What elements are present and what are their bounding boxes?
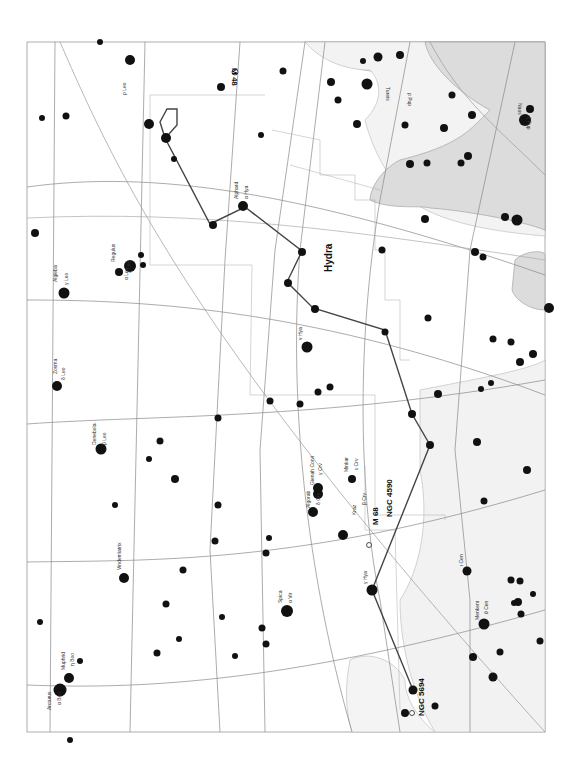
- kraz-sub-label: β Crv: [361, 492, 367, 505]
- muphrid-sub-label: η Boo: [69, 653, 75, 666]
- rho-pup-label: ρ Pup: [407, 93, 413, 106]
- regulus-label: Regulus: [110, 243, 116, 262]
- hydra-label: Hydra: [323, 243, 334, 272]
- alphard-sub-label: α Hya: [243, 186, 249, 199]
- muphrid-label: Muphrid: [60, 652, 66, 670]
- tureis-label: Tureis: [385, 87, 391, 101]
- m68-label: M 68: [371, 507, 380, 525]
- gienah-sub-label: γ Crv: [317, 463, 323, 475]
- nu-hya-label: ν Hya: [297, 327, 303, 340]
- m48-label: M 48: [230, 68, 239, 86]
- algieba-sub-label: γ Leo: [63, 273, 69, 285]
- minkar-label: Minkar: [343, 457, 349, 472]
- gamma-hya-label: γ Hya: [362, 571, 368, 584]
- zosma-label: Zosma: [52, 359, 58, 375]
- ngc5694-icon: [410, 711, 415, 716]
- alphard-label: Alphard: [233, 182, 239, 199]
- ngc5694-label: NGC 5694: [417, 678, 426, 716]
- algorab-label: Algorab: [305, 491, 311, 508]
- iota-cen-label: ι Cen: [458, 554, 464, 566]
- algieba-label: Algieba: [52, 265, 58, 282]
- rho-leo-label: ρ Leo: [121, 82, 127, 95]
- chi-leo-label: χ Leo: [125, 260, 131, 273]
- spica-sub-label: α Vir: [287, 592, 293, 603]
- spica-label: Spica: [277, 590, 283, 603]
- vindemiatrix-label: Vindemiatrix: [116, 542, 122, 570]
- m68-icon: [367, 543, 372, 548]
- algorab-sub-label: δ Crv: [315, 493, 321, 505]
- zeta-pup-label: ζ Pup: [525, 117, 532, 130]
- gienah-label: Gienah Corvi: [309, 456, 315, 485]
- zosma-sub-label: δ Leo: [60, 367, 66, 380]
- arcturus-label: Arcturus: [46, 691, 52, 710]
- denebola-label: Denebola: [91, 423, 97, 445]
- ngc4590-label: NGC 4590: [385, 479, 394, 517]
- star-chart: Hydra M 48 M 68 NGC 4590 NGC 5694 Alphar…: [0, 0, 572, 778]
- arcturus-sub-label: α Boo: [56, 692, 62, 705]
- denebola-sub-label: β Leo: [101, 432, 107, 445]
- menkent-label: Menkent: [474, 600, 480, 620]
- kraz-label: Kraz: [351, 504, 357, 515]
- minkar-sub-label: ε Crv: [353, 458, 359, 470]
- naos-label: Naos: [517, 103, 523, 115]
- menkent-sub-label: θ Cen: [483, 600, 489, 614]
